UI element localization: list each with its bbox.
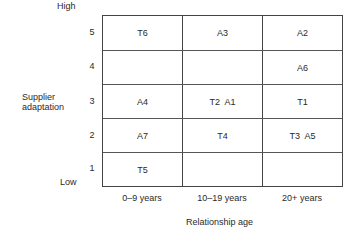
cell-r4-c2 — [183, 51, 262, 84]
cell-r5-c1: T6 — [103, 16, 182, 50]
cell-r1-c3 — [263, 153, 342, 186]
y-axis-low-label: Low — [60, 177, 77, 187]
cell-r1-c2 — [183, 153, 262, 186]
x-axis-title: Relationship age — [186, 217, 253, 227]
y-axis-title-line2: adaptation — [22, 102, 64, 112]
row-level-2: 2 — [86, 130, 98, 140]
x-category-20-plus-years: 20+ years — [262, 193, 342, 203]
cell-r4-c1 — [103, 51, 182, 84]
cell-r3-c2: T2 A1 — [183, 85, 262, 118]
cell-r2-c2: T4 — [183, 119, 262, 152]
row-level-5: 5 — [86, 27, 98, 37]
x-category-10-19-years: 10–19 years — [182, 193, 262, 203]
y-axis-high-label: High — [57, 1, 76, 11]
y-axis-title: Supplier adaptation — [22, 92, 64, 112]
cell-r3-c3: T1 — [263, 85, 342, 118]
cell-r1-c1: T5 — [103, 153, 182, 186]
row-level-4: 4 — [86, 61, 98, 71]
cell-r5-c2: A3 — [183, 16, 262, 50]
cell-r3-c1: A4 — [103, 85, 182, 118]
row-level-3: 3 — [86, 96, 98, 106]
row-level-1: 1 — [86, 163, 98, 173]
cell-r2-c3: T3 A5 — [263, 119, 342, 152]
x-category-0-9-years: 0–9 years — [102, 193, 182, 203]
cell-r2-c1: A7 — [103, 119, 182, 152]
matrix-grid: T6 A3 A2 A6 A4 T2 A1 T1 A7 T4 T3 A5 T5 — [102, 15, 343, 187]
cell-r5-c3: A2 — [263, 16, 342, 50]
y-axis-title-line1: Supplier — [22, 92, 64, 102]
cell-r4-c3: A6 — [263, 51, 342, 84]
